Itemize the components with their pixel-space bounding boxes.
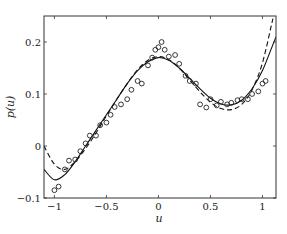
data-point [256, 89, 261, 94]
data-point [125, 97, 130, 102]
solid-fit-line [44, 37, 276, 180]
data-point [187, 79, 192, 84]
sample-markers [52, 40, 268, 193]
dashed-fit-line [44, 19, 273, 170]
data-point [260, 81, 265, 86]
data-point [250, 92, 255, 97]
x-axis-label: u [155, 212, 162, 225]
data-point [108, 112, 113, 117]
data-point [166, 54, 171, 59]
data-point [156, 45, 161, 50]
x-tick-label: −1 [47, 201, 62, 212]
data-point [56, 184, 61, 189]
x-tick-label: 0 [155, 201, 161, 212]
x-tick-label: 1 [259, 201, 265, 212]
data-point [112, 105, 117, 110]
data-point [104, 120, 109, 125]
data-point [129, 87, 134, 92]
data-point [153, 47, 158, 52]
data-point [159, 40, 164, 45]
data-point [198, 102, 203, 107]
y-tick-label: −0.1 [17, 193, 41, 204]
y-tick-label: 0.2 [25, 37, 41, 48]
x-tick-label: 0.5 [203, 201, 219, 212]
y-tick-label: 0 [35, 141, 41, 152]
data-point [162, 47, 167, 52]
x-tick-label: −0.5 [94, 201, 118, 212]
data-point [173, 53, 178, 58]
y-tick-label: 0.1 [25, 89, 41, 100]
data-point [204, 105, 209, 110]
data-point [263, 79, 268, 84]
data-point [87, 133, 92, 138]
y-axis-label: p(u) [4, 96, 17, 119]
data-point [177, 61, 182, 66]
data-point [119, 102, 124, 107]
axis-ticks: −1−0.500.51−0.100.10.2 [17, 16, 276, 212]
plot-area [44, 19, 276, 193]
data-point [139, 81, 144, 86]
data-point [67, 158, 72, 163]
data-point [52, 188, 57, 193]
chart: −1−0.500.51−0.100.10.2 u p(u) [0, 0, 287, 234]
data-point [146, 63, 151, 68]
